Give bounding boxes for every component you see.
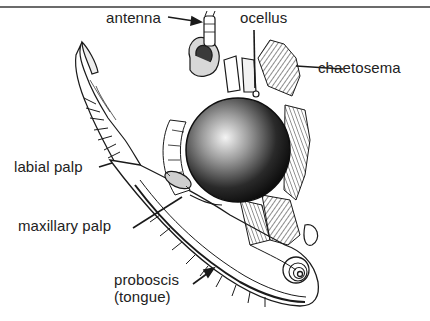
ocellus-structure bbox=[253, 91, 259, 97]
compound-eye bbox=[186, 98, 290, 202]
label-proboscis-tongue: (tongue) bbox=[114, 289, 171, 305]
label-antenna: antenna bbox=[106, 10, 161, 26]
label-labial-palp: labial palp bbox=[14, 159, 83, 175]
label-chaetosema: chaetosema bbox=[318, 60, 401, 76]
label-ocellus: ocellus bbox=[240, 10, 287, 26]
label-maxillary-palp: maxillary palp bbox=[18, 218, 111, 234]
labial-palp-structure bbox=[76, 42, 150, 180]
label-proboscis: proboscis bbox=[114, 272, 179, 288]
